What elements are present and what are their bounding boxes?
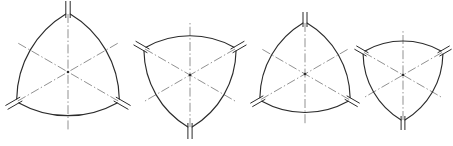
- slot-edge: [252, 99, 265, 107]
- figure-1: [5, 1, 130, 130]
- slot-edge: [114, 101, 129, 110]
- figure-2: [134, 23, 247, 139]
- vertex-slot: [438, 46, 452, 56]
- slot-edge: [116, 97, 131, 106]
- figure-2-centerlines: [145, 23, 235, 127]
- figure-3-centerlines: [261, 23, 349, 125]
- slot-edge: [5, 97, 20, 106]
- profile-arc: [70, 14, 119, 99]
- technical-drawing-canvas: [0, 0, 453, 146]
- center-point: [67, 71, 70, 74]
- center-point: [402, 74, 405, 77]
- figure-4: [354, 30, 451, 130]
- slot-edge: [8, 101, 23, 110]
- figure-1-centerlines: [18, 14, 118, 130]
- vertex-slot: [354, 46, 368, 56]
- slot-edge: [345, 99, 358, 107]
- figure-4-centerlines: [364, 30, 442, 120]
- profile-arc: [17, 14, 66, 99]
- slot-edge: [231, 41, 245, 49]
- figure-3: [250, 12, 359, 125]
- center-point: [304, 73, 307, 76]
- figure-sheet: [0, 0, 453, 146]
- slot-edge: [136, 41, 150, 49]
- center-point: [189, 74, 192, 77]
